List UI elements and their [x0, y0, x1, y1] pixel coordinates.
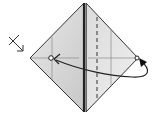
target-point-circle-icon — [49, 56, 54, 61]
diagram-svg — [0, 0, 159, 122]
paper-left-face — [30, 3, 84, 112]
origami-diagram — [0, 0, 159, 122]
source-point-circle-icon — [135, 56, 139, 60]
paper-right-face — [86, 3, 138, 112]
x-arrow-symbol-icon — [9, 35, 23, 51]
